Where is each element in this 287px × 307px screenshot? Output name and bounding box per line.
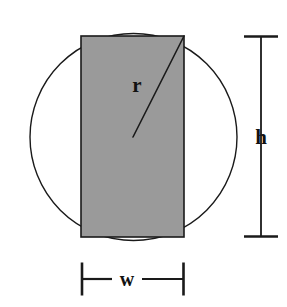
width-label: w [120,268,135,290]
height-label: h [255,125,267,149]
geometry-figure: r h w [0,0,287,307]
radius-label: r [132,73,141,97]
figure-canvas: r h w [0,0,287,307]
